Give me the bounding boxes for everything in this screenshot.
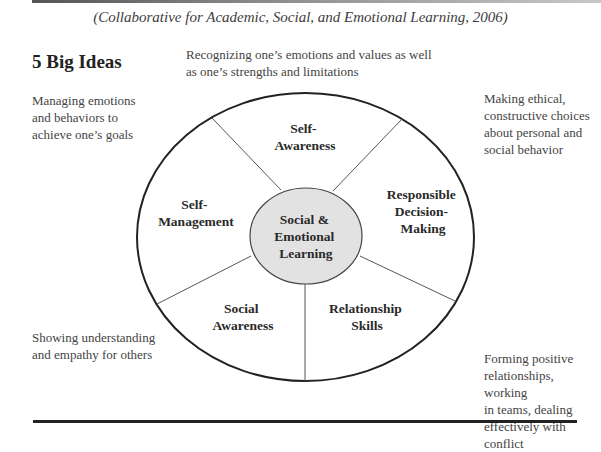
divider-upper-right (333, 119, 402, 191)
segment-responsible-decision-making: Responsible Decision- Making (387, 187, 459, 236)
segment-self-awareness: Self- Awareness (275, 121, 336, 153)
divider-lower-left (157, 256, 251, 304)
segment-relationship-skills: Relationship Skills (329, 301, 405, 333)
segment-self-management: Self- Management (158, 197, 234, 229)
bottom-rule (33, 420, 577, 423)
divider-lower-right (360, 256, 455, 301)
segment-social-awareness: Social Awareness (213, 301, 274, 333)
divider-upper-left (212, 118, 281, 190)
center-label: Social & Emotional Learning (274, 212, 337, 261)
